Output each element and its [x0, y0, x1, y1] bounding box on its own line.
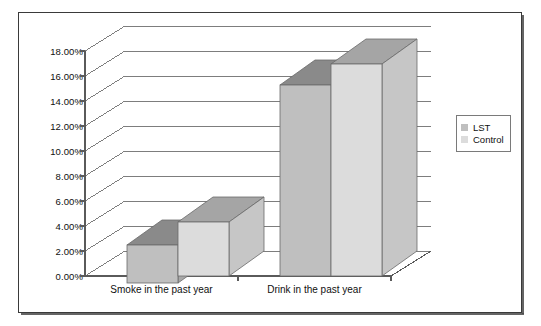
legend-swatch-lst: [461, 124, 468, 131]
legend-label-control: Control: [473, 134, 504, 145]
plot-area: [19, 13, 523, 314]
chart-page: 18.00% 16.00% 14.00% 12.00% 10.00% 8.00%…: [0, 0, 541, 326]
category-label-smoke: Smoke in the past year: [85, 284, 238, 295]
bar-control-smoke: [178, 197, 264, 276]
chart-frame: 18.00% 16.00% 14.00% 12.00% 10.00% 8.00%…: [18, 12, 522, 313]
value-axis: [80, 51, 85, 276]
frame-shadow-bottom: [21, 313, 524, 315]
category-label-drink: Drink in the past year: [238, 284, 391, 295]
legend-label-lst: LST: [473, 122, 490, 133]
legend-swatch-control: [461, 136, 468, 143]
bar-chart: 18.00% 16.00% 14.00% 12.00% 10.00% 8.00%…: [19, 13, 523, 314]
legend-item-lst: LST: [461, 122, 504, 133]
bar-control-drink: [331, 39, 417, 276]
legend-item-control: Control: [461, 134, 504, 145]
frame-shadow-right: [522, 15, 524, 314]
chart-legend: LST Control: [456, 115, 511, 152]
